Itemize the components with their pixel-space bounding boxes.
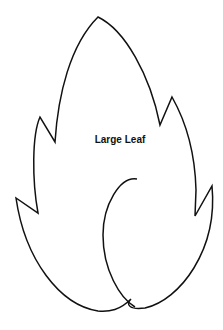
- leaf-outline-icon: [0, 0, 223, 330]
- inner-curve: [103, 179, 137, 307]
- leaf-label: Large Leaf: [85, 134, 155, 145]
- leaf-template-canvas: Large Leaf: [0, 0, 223, 330]
